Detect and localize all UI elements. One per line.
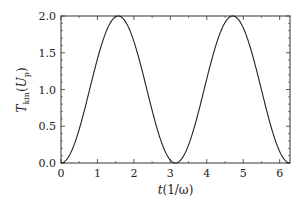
y-axis-ticks: 0.00.51.01.52.0 <box>39 10 291 170</box>
y-tick-label: 1.0 <box>39 84 57 97</box>
y-tick-label: 1.5 <box>39 47 57 60</box>
y-tick-label: 2.0 <box>39 10 57 23</box>
y-axis-label: Tkin(Up) <box>15 67 31 112</box>
y-tick-label: 0.5 <box>39 120 57 133</box>
x-axis-ticks: 0123456 <box>58 16 284 180</box>
x-tick-label: 2 <box>130 167 137 180</box>
x-axis-label: t(1/ω) <box>158 183 194 197</box>
x-tick-label: 1 <box>94 167 101 180</box>
plot-area <box>61 16 290 163</box>
x-tick-label: 0 <box>58 167 65 180</box>
chart: 0123456 0.00.51.01.52.0 t(1/ω) Tkin(Up) <box>0 0 304 204</box>
data-line <box>61 16 290 163</box>
x-tick-label: 5 <box>240 167 247 180</box>
x-tick-label: 3 <box>167 167 174 180</box>
y-tick-label: 0.0 <box>39 157 57 170</box>
x-tick-label: 4 <box>203 167 210 180</box>
x-tick-label: 6 <box>276 167 283 180</box>
